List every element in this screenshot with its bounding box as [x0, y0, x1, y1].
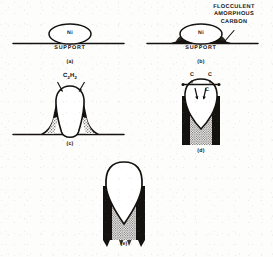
panel-d-carbon-label-left: C [190, 73, 194, 79]
panel-d-caption: (d) [197, 149, 205, 154]
annotation-line-3: CARBON [213, 19, 254, 26]
panel-c-reactant-label: C2H2 [63, 73, 77, 81]
annotation-line-2: AMORPHOUS [213, 11, 254, 18]
panel-a-particle-label: Ni [67, 31, 73, 36]
panel-b-support-label: SUPPORT [185, 46, 216, 52]
panel-d-carbon-label-right: C [208, 73, 212, 79]
panel-d-artwork [182, 79, 221, 145]
annotation-line-1: FLOCCULENT [213, 4, 254, 11]
panel-d-carbon-label-inner: C [205, 88, 209, 94]
panel-b-caption: (b) [197, 60, 205, 65]
panel-c-artwork [13, 82, 124, 137]
panel-a-support-label: SUPPORT [54, 46, 85, 52]
panel-b-particle-label: Ni [198, 31, 204, 36]
panel-e-caption: (e) [120, 242, 127, 247]
panel-c-caption: (c) [66, 142, 73, 147]
figure-artwork [0, 0, 273, 257]
flocculent-carbon-annotation: FLOCCULENT AMORPHOUS CARBON [213, 4, 254, 26]
panel-a-caption: (a) [66, 60, 73, 65]
panel-e-artwork [103, 162, 145, 247]
figure-carbon-filament-growth: Ni SUPPORT (a) Ni SUPPORT (b) FLOCCULENT… [0, 0, 273, 257]
